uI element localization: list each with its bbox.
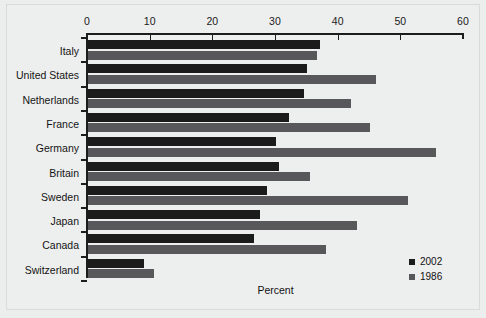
bar-switzerland-1986 [88, 269, 154, 278]
category-label-japan: Japan [50, 216, 79, 227]
category-label-britain: Britain [49, 168, 79, 179]
bar-switzerland-2002 [88, 259, 144, 268]
bar-sweden-1986 [88, 196, 408, 205]
y-tick-canada [81, 231, 87, 233]
x-tick-label-30: 30 [269, 15, 281, 27]
bar-japan-1986 [88, 221, 357, 230]
chart-figure: 0102030405060 ItalyUnited StatesNetherla… [0, 0, 486, 318]
x-tick-label-0: 0 [84, 15, 90, 27]
category-label-france: France [46, 119, 79, 130]
bar-canada-2002 [88, 234, 254, 243]
bar-germany-2002 [88, 137, 276, 146]
bar-italy-1986 [88, 51, 317, 60]
category-label-sweden: Sweden [41, 192, 79, 203]
bar-france-2002 [88, 113, 289, 122]
legend-swatch-icon-2002 [409, 259, 415, 265]
y-tick-france [81, 110, 87, 112]
x-tick-mark-40 [338, 35, 339, 40]
y-tick-germany [81, 134, 87, 136]
bar-netherlands-1986 [88, 99, 351, 108]
bar-britain-1986 [88, 172, 310, 181]
chart-legend: 20021986 [409, 255, 442, 285]
x-axis-right-cap [462, 33, 464, 39]
x-axis-title: Percent [87, 284, 464, 296]
y-tick-united-states [81, 61, 87, 63]
bar-united-states-1986 [88, 75, 376, 84]
x-tick-mark-50 [400, 35, 401, 40]
category-label-united-states: United States [16, 70, 79, 81]
x-tick-label-40: 40 [332, 15, 344, 27]
legend-item-2002: 2002 [409, 255, 442, 268]
legend-swatch-icon-1986 [409, 274, 415, 280]
legend-item-1986: 1986 [409, 270, 442, 283]
bar-sweden-2002 [88, 186, 267, 195]
bar-britain-2002 [88, 162, 279, 171]
y-tick-britain [81, 159, 87, 161]
category-label-germany: Germany [36, 143, 79, 154]
category-label-switzerland: Switzerland [25, 265, 79, 276]
legend-label-2002: 2002 [420, 256, 442, 268]
y-tick-japan [81, 207, 87, 209]
x-tick-label-10: 10 [144, 15, 156, 27]
category-labels: ItalyUnited StatesNetherlandsFranceGerma… [0, 0, 79, 318]
category-label-canada: Canada [42, 240, 79, 251]
bar-italy-2002 [88, 40, 320, 49]
y-axis-end-tick [81, 280, 87, 282]
y-tick-italy [81, 37, 87, 39]
x-tick-label-20: 20 [206, 15, 218, 27]
category-label-italy: Italy [60, 46, 79, 57]
x-tick-label-60: 60 [457, 15, 469, 27]
bar-canada-1986 [88, 245, 326, 254]
bar-france-1986 [88, 123, 370, 132]
legend-label-1986: 1986 [420, 271, 442, 283]
bar-japan-2002 [88, 210, 260, 219]
bar-united-states-2002 [88, 64, 307, 73]
y-tick-switzerland [81, 256, 87, 258]
y-tick-sweden [81, 183, 87, 185]
bar-germany-1986 [88, 148, 436, 157]
category-label-netherlands: Netherlands [22, 95, 79, 106]
y-tick-netherlands [81, 86, 87, 88]
bar-netherlands-2002 [88, 89, 304, 98]
x-tick-label-50: 50 [394, 15, 406, 27]
